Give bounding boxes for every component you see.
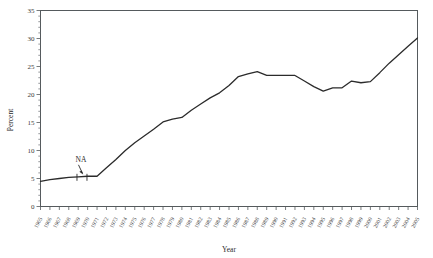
y-axis-tick-label: 20 — [28, 91, 36, 99]
data-line-percent — [41, 38, 418, 181]
y-axis: 05101520253035 — [28, 7, 41, 211]
chart-container: 05101520253035 1965196619671968196919701… — [0, 0, 433, 258]
na-label: NA — [76, 155, 87, 164]
y-axis-tick-label: 30 — [28, 35, 36, 43]
x-axis-tick-label: 2005 — [410, 216, 421, 229]
x-axis-title: Year — [222, 245, 236, 254]
na-arrow-head — [79, 170, 83, 174]
line-chart: 05101520253035 1965196619671968196919701… — [0, 0, 433, 258]
y-axis-tick-label: 5 — [31, 175, 35, 183]
plot-frame — [41, 11, 418, 207]
y-axis-tick-label: 15 — [28, 119, 36, 127]
y-axis-tick-label: 25 — [28, 63, 36, 71]
x-axis: 1965196619671968196919701971197219731974… — [33, 207, 421, 229]
series-group — [41, 38, 418, 181]
y-axis-tick-label: 35 — [28, 7, 36, 15]
y-axis-title: Percent — [6, 108, 15, 131]
y-axis-tick-label: 10 — [28, 147, 36, 155]
y-axis-tick-label: 0 — [31, 203, 35, 211]
